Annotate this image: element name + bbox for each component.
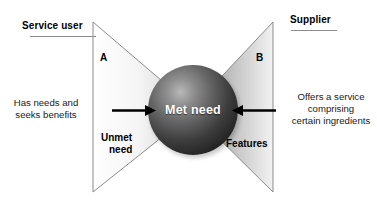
letter-b-label: B [256, 52, 263, 63]
unmet-need-line-2: need [109, 144, 132, 156]
supplier-description-line-1: Offers a service [285, 91, 377, 103]
service-user-rule [30, 36, 96, 37]
center-label: Met need [165, 103, 221, 117]
diagram-canvas: Met need Service user Supplier A B Has n… [0, 0, 377, 216]
service-user-description: Has needs and seeks benefits [6, 97, 86, 121]
arrow-left-icon [232, 104, 276, 117]
service-user-label: Service user [22, 20, 96, 31]
sphere-icon: Met need [148, 65, 238, 155]
service-user-description-line-1: Has needs and [6, 97, 86, 109]
supplier-label: Supplier [290, 14, 337, 25]
features-label: Features [226, 138, 268, 150]
letter-a-label: A [100, 52, 107, 63]
supplier-description: Offers a service comprising certain ingr… [285, 91, 377, 127]
supplier-rule [291, 30, 337, 31]
supplier-heading: Supplier [290, 14, 337, 31]
service-user-heading: Service user [22, 20, 96, 37]
unmet-need-label: Unmet need [101, 132, 132, 156]
arrow-right-icon [112, 104, 156, 117]
unmet-need-line-1: Unmet [101, 132, 132, 144]
supplier-description-line-2: comprising [285, 103, 377, 115]
supplier-description-line-3: certain ingredients [285, 115, 377, 127]
service-user-description-line-2: seeks benefits [6, 109, 86, 121]
